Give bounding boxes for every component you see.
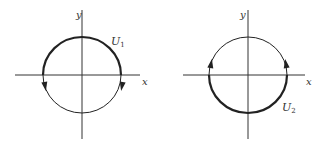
x-axis-label: x [142, 76, 148, 87]
diagram-left: y x U1 [15, 9, 148, 139]
arrow-right-up-icon [282, 59, 289, 69]
curve-label-u2: U2 [282, 101, 296, 115]
y-axis-label: y [239, 9, 246, 20]
curve-label-u1: U1 [111, 35, 125, 49]
y-axis-label: y [75, 9, 82, 20]
arrow-left-up-icon [207, 59, 214, 69]
diagram-right: y x U2 [183, 9, 312, 139]
arrow-left-down-icon [41, 82, 48, 92]
figure: y x U1 y x U2 [0, 0, 327, 147]
x-axis-label: x [306, 76, 312, 87]
